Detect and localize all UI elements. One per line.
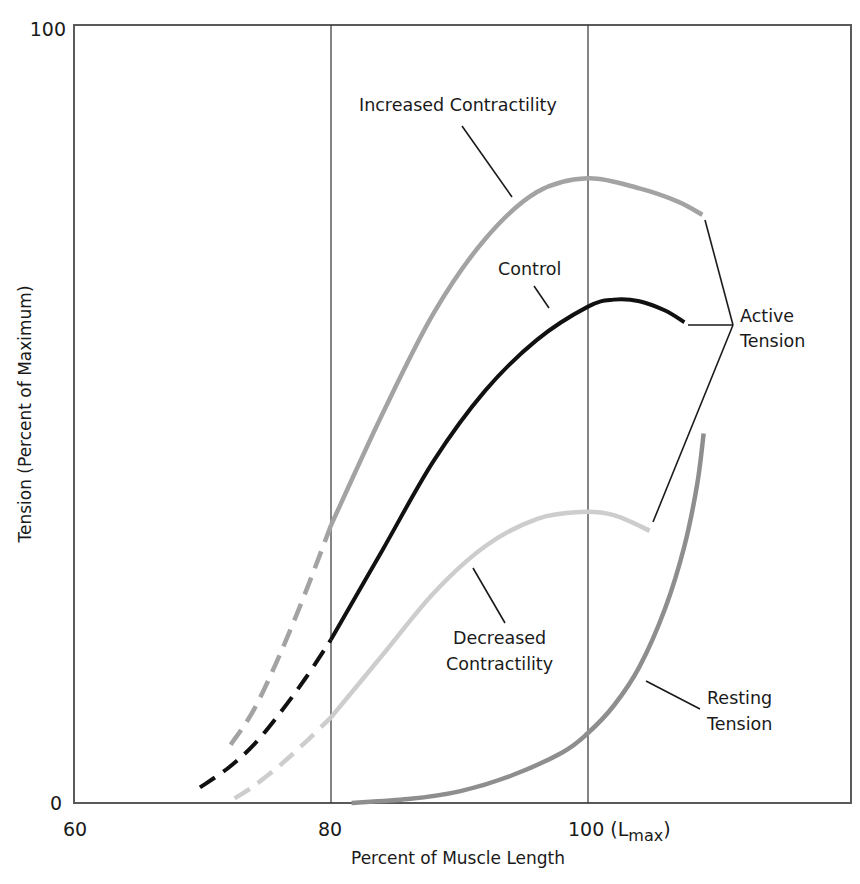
curves [200,178,704,803]
leader-decreased [473,568,505,623]
curve-control [331,299,684,639]
curve-increased-contractility-dashed [231,525,331,744]
leader-lines [462,126,733,709]
x-axis-title: Percent of Muscle Length [351,848,565,868]
leader-resting [646,681,700,709]
y-tick-100: 100 [30,18,66,40]
curve-resting-tension [352,433,704,803]
label-resting-line1: Resting [707,688,772,708]
x-tick-60: 60 [63,818,87,840]
label-resting-line2: Tension [706,714,772,734]
curve-increased-contractility [331,178,702,525]
leader-control [534,286,549,308]
plot-frame [74,25,851,803]
label-active-line2: Tension [739,331,805,351]
label-control: Control [498,259,561,279]
leader-active-decreased [653,325,733,522]
label-active-line1: Active [740,306,794,326]
leader-active-increased [705,220,733,325]
x-tick-100: 100 (Lmax) [568,818,671,845]
curve-control-dashed [200,640,331,788]
curve-decreased-contractility-dashed [235,717,331,798]
leader-increased [462,126,512,197]
y-tick-0: 0 [50,792,62,814]
label-increased-contractility: Increased Contractility [359,95,557,115]
label-decreased-line1: Decreased [453,628,546,648]
x-tick-80: 80 [318,818,342,840]
chart: 100 0 60 80 100 (Lmax) Percent of Muscle… [0,0,860,884]
label-decreased-line2: Contractility [446,654,553,674]
vertical-gridlines [331,25,588,803]
curve-decreased-contractility [331,512,650,718]
y-axis-title: Tension (Percent of Maximum) [15,285,35,543]
